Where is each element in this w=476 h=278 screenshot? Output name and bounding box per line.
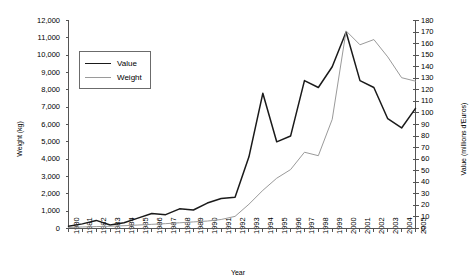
legend-item-weight: Weight [85, 70, 145, 84]
plot-area [0, 0, 476, 278]
legend-item-value: Value [85, 56, 145, 70]
legend-label-value: Value [117, 59, 137, 68]
legend-swatch-value-icon [85, 63, 111, 64]
legend: Value Weight [79, 51, 151, 89]
legend-swatch-weight-icon [85, 77, 111, 78]
chart-container: Weight (kg) Value (millions d'Euros) Yea… [0, 0, 476, 278]
legend-label-weight: Weight [117, 73, 142, 82]
